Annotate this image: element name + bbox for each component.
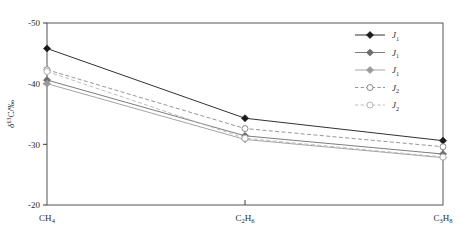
plot-border bbox=[47, 23, 443, 205]
legend-item-2[interactable] bbox=[355, 49, 385, 56]
data-point-marker bbox=[439, 137, 446, 144]
legend-marker bbox=[367, 102, 373, 108]
legend-item-5[interactable] bbox=[355, 102, 385, 108]
legend-marker bbox=[366, 49, 373, 56]
y-axis-tick-label: -50 bbox=[28, 18, 40, 28]
legend-marker bbox=[366, 66, 373, 73]
x-axis-tick-label: C2H6 bbox=[235, 213, 255, 224]
legend-item-4[interactable] bbox=[355, 85, 385, 91]
legend-marker bbox=[366, 31, 373, 38]
data-point-marker bbox=[242, 126, 248, 132]
data-point-marker bbox=[242, 135, 248, 141]
legend-label: J1 bbox=[392, 65, 399, 76]
y-axis-tick-label: -30 bbox=[28, 140, 40, 150]
x-axis-tick-label: CH4 bbox=[39, 213, 56, 224]
legend-label: J1 bbox=[392, 48, 399, 59]
x-axis-tick-label: C3H8 bbox=[433, 213, 452, 224]
legend-label: J1 bbox=[392, 30, 399, 41]
data-point-marker bbox=[241, 115, 248, 122]
data-point-marker bbox=[440, 154, 446, 160]
data-point-marker bbox=[43, 45, 50, 52]
legend-item-3[interactable] bbox=[355, 66, 385, 73]
data-point-marker bbox=[440, 144, 446, 150]
data-point-marker bbox=[44, 69, 50, 75]
legend-label: J2 bbox=[392, 100, 399, 111]
legend-item-1[interactable] bbox=[355, 31, 385, 38]
y-axis-title: δ13C/‰ bbox=[5, 100, 16, 128]
chart-container: -50-40-30-20CH4C2H6C3H8δ13C/‰J1J1J1J2J2 bbox=[0, 0, 462, 237]
legend-label: J2 bbox=[392, 83, 399, 94]
line-chart: -50-40-30-20CH4C2H6C3H8δ13C/‰J1J1J1J2J2 bbox=[0, 0, 462, 237]
y-axis-tick-label: -20 bbox=[28, 200, 40, 210]
y-axis-tick-label: -40 bbox=[28, 79, 40, 89]
legend-marker bbox=[367, 85, 373, 91]
